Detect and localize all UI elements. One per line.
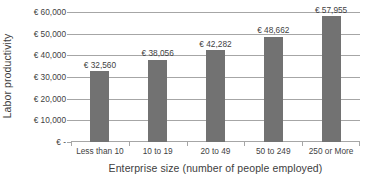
bar-series: € 32,560 € 38,056 € 42,282 € 48,662 € 57… [71,12,360,142]
x-axis-tick-label: 20 to 49 [187,146,245,156]
x-axis-tick-label: 250 or More [302,146,360,156]
x-axis-tick-label: 10 to 19 [129,146,187,156]
y-axis-tick-label: € 40,000 [18,51,66,60]
y-axis-tick-label: € 60,000 [18,8,66,17]
y-axis-tick-label: € 20,000 [18,94,66,103]
bar[interactable] [264,37,283,142]
bar-value-label: € 32,560 [84,61,116,70]
y-axis-tick-label: € 30,000 [18,73,66,82]
bar[interactable] [322,16,341,142]
x-axis-tick-label: Less than 10 [71,146,129,156]
bar-chart: Labor productivity € 60,000 € 50,000 € 4… [0,0,368,184]
bar[interactable] [148,60,167,142]
bar[interactable] [206,50,225,142]
bar-value-label: € 38,056 [142,49,174,58]
y-axis-tick-labels: € 60,000 € 50,000 € 40,000 € 30,000 € 20… [18,12,66,142]
y-axis-tick-label: € 50,000 [18,29,66,38]
bar-value-label: € 42,282 [199,40,231,49]
bar-slot: € 42,282 [187,12,245,142]
y-axis-title: Labor productivity [0,2,14,150]
bar-slot: € 48,662 [244,12,302,142]
bar-slot: € 38,056 [129,12,187,142]
x-axis-tick-label: 50 to 249 [244,146,302,156]
bar-slot: € 57,955 [302,12,360,142]
plot-area: € 32,560 € 38,056 € 42,282 € 48,662 € 57… [71,12,360,142]
bar-slot: € 32,560 [71,12,129,142]
y-axis-tick-label: € - [18,138,66,147]
bar-value-label: € 57,955 [315,6,347,15]
bar[interactable] [90,71,109,142]
bar-value-label: € 48,662 [257,26,289,35]
x-axis-tick-labels: Less than 10 10 to 19 20 to 49 50 to 249… [71,146,360,156]
x-axis-title: Enterprise size (number of people employ… [71,162,360,174]
y-axis-tick-label: € 10,000 [18,116,66,125]
